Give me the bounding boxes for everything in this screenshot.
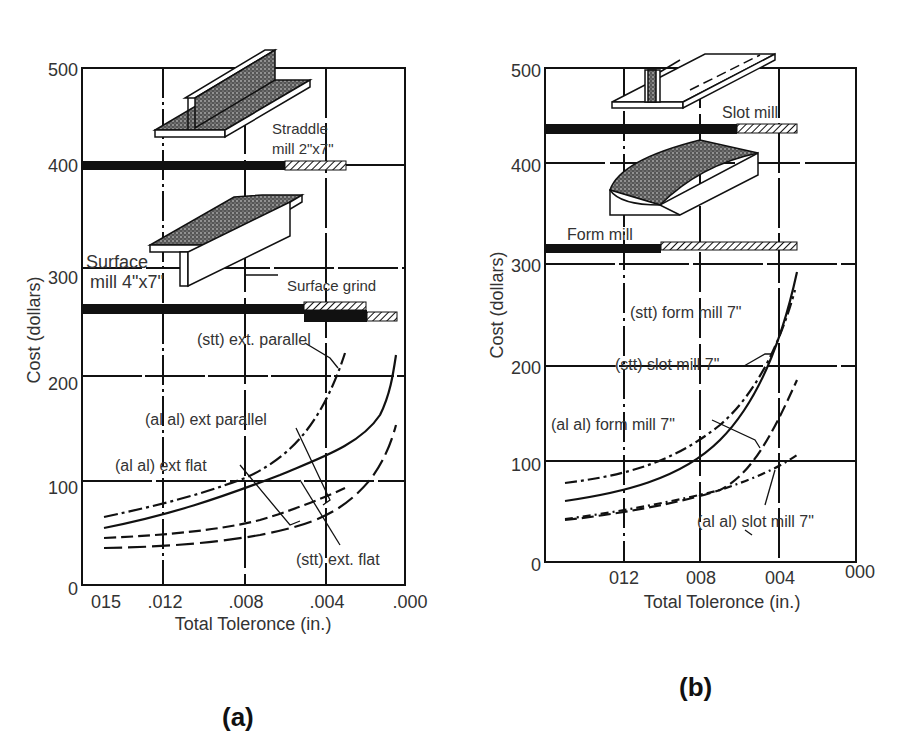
y-axis-label-b: Cost (dollars) [487,251,507,358]
y-axis-label-a: Cost (dollars) [24,276,44,383]
grid-a [82,68,405,585]
x-tick: 008 [686,568,716,588]
bar-slot-mill [545,124,797,134]
leaders-b [545,354,775,535]
y-tick: 500 [511,61,541,81]
series-a [104,353,396,548]
bar-surface-grind [304,310,397,322]
panel-label-a: (a) [222,702,254,733]
panel-label-b: (b) [679,672,712,703]
y-tick: 200 [511,358,541,378]
y-tick: 0 [531,555,541,575]
x-tick: .008 [228,592,263,612]
y-ticks-a: 500 400 300 200 100 0 [48,60,78,599]
x-ticks-b: 012 008 004 000 [609,562,875,588]
x-ticks-a: 015 .012 .008 .004 .000 [91,592,428,612]
curve-stt-ext-parallel [104,353,345,517]
label-alal-ext-flat: (al al) ext flat [115,457,207,474]
y-tick: 400 [511,156,541,176]
x-tick: 000 [845,562,875,582]
x-tick: 012 [609,568,639,588]
inverted-tee-section-icon [150,195,302,286]
x-axis-label-b: Total Toleronce (in.) [644,592,801,612]
x-tick: .000 [392,592,427,612]
form-mill-section-icon [610,140,758,215]
label-alal-ext-parallel: (al al) ext parallel [145,411,267,428]
y-tick: 500 [48,60,78,80]
label-form-mill: Form mill [567,226,633,243]
bar-straddle-mill [82,161,346,170]
slotted-tee-section-icon [612,54,775,108]
y-tick: 400 [48,156,78,176]
y-ticks-b: 500 400 300 200 100 0 [511,61,541,575]
y-tick: 300 [48,268,78,288]
x-tick: 004 [765,568,795,588]
label-straddle-2: mill 2"x7" [272,140,334,157]
label-surface-1: Surface [86,252,148,272]
x-tick: .012 [147,592,182,612]
label-surface-2: mill 4"x7" [90,272,164,292]
x-axis-label-a: Total Toleronce (in.) [175,614,332,634]
y-tick: 100 [511,455,541,475]
label-surface-grind: Surface grind [287,277,376,294]
x-tick: .004 [309,592,344,612]
label-straddle-1: Straddle [272,120,328,137]
label-stt-form-mill: (stt) form mill 7" [630,304,741,321]
y-tick: 100 [48,478,78,498]
curve-alal-slot-mill [565,455,797,519]
chart-panel-b: 500 400 300 200 100 0 012 008 004 000 To… [487,54,875,612]
x-tick: 015 [91,592,121,612]
label-stt-ext-parallel: (stt) ext. parallel [197,331,311,348]
label-alal-slot-mill: (al al) slot mill 7" [697,513,814,530]
bar-form-mill [545,242,797,253]
label-alal-form-mill: (al al) form mill 7" [551,416,675,433]
label-stt-slot-mill: (stt) slot mill 7" [615,356,719,373]
chart-panel-a: 500 400 300 200 100 0 015 .012 .008 .004… [24,50,428,634]
y-tick: 0 [68,579,78,599]
y-tick: 200 [48,374,78,394]
y-tick: 300 [511,256,541,276]
label-slot-mill: Slot mill [722,104,778,121]
curve-alal-ext-parallel [104,355,396,528]
label-stt-ext-flat: (stt) ext. flat [296,551,380,568]
figure-svg: 500 400 300 200 100 0 015 .012 .008 .004… [0,0,903,744]
figure: 500 400 300 200 100 0 015 .012 .008 .004… [0,0,903,744]
